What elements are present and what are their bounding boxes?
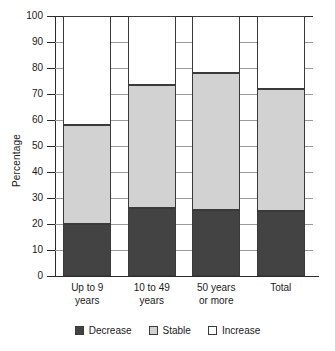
y-tick-label-90: 90 xyxy=(0,37,43,47)
bar-segment-decrease xyxy=(63,224,111,276)
bar-3 xyxy=(192,16,240,276)
y-tick-mark-70 xyxy=(47,94,55,95)
y-tick-mark-0 xyxy=(47,276,55,277)
bar-segment-stable xyxy=(192,73,240,210)
bar-segment-increase xyxy=(257,16,305,89)
bar-4 xyxy=(257,16,305,276)
plot-area xyxy=(55,16,313,276)
legend-item-stable[interactable]: Stable xyxy=(149,325,191,336)
bar-segment-stable xyxy=(257,89,305,211)
y-tick-label-80: 80 xyxy=(0,63,43,73)
x-axis-line xyxy=(47,276,319,277)
y-tick-label-40: 40 xyxy=(0,167,43,177)
bar-segment-stable xyxy=(128,85,176,209)
legend-item-increase[interactable]: Increase xyxy=(208,325,260,336)
y-tick-mark-50 xyxy=(47,146,55,147)
category-label-line: Total xyxy=(238,281,324,294)
legend: DecreaseStableIncrease xyxy=(0,325,335,336)
bar-segment-increase xyxy=(192,16,240,73)
bar-1 xyxy=(63,16,111,276)
y-tick-label-60: 60 xyxy=(0,115,43,125)
y-tick-mark-40 xyxy=(47,172,55,173)
y-tick-mark-20 xyxy=(47,224,55,225)
y-tick-mark-80 xyxy=(47,68,55,69)
bar-segment-decrease xyxy=(192,210,240,276)
bar-segment-decrease xyxy=(128,208,176,276)
legend-swatch-stable-icon xyxy=(149,326,158,335)
legend-swatch-decrease-icon xyxy=(75,326,84,335)
y-tick-label-100: 100 xyxy=(0,11,43,21)
y-tick-label-50: 50 xyxy=(0,141,43,151)
bar-segment-increase xyxy=(63,16,111,125)
category-label-line: or more xyxy=(173,294,259,307)
y-tick-mark-10 xyxy=(47,250,55,251)
x-category-label-4: Total xyxy=(238,281,324,294)
legend-item-decrease[interactable]: Decrease xyxy=(75,325,132,336)
y-tick-mark-100 xyxy=(47,16,55,17)
bar-2 xyxy=(128,16,176,276)
y-tick-mark-60 xyxy=(47,120,55,121)
y-tick-label-20: 20 xyxy=(0,219,43,229)
bar-segment-stable xyxy=(63,125,111,224)
y-tick-label-70: 70 xyxy=(0,89,43,99)
legend-label: Increase xyxy=(222,325,260,336)
y-tick-mark-90 xyxy=(47,42,55,43)
y-tick-label-30: 30 xyxy=(0,193,43,203)
legend-label: Decrease xyxy=(89,325,132,336)
y-tick-label-10: 10 xyxy=(0,245,43,255)
bar-segment-decrease xyxy=(257,211,305,276)
legend-label: Stable xyxy=(163,325,191,336)
y-tick-label-0: 0 xyxy=(0,271,43,281)
stacked-bar-chart: Percentage 0102030405060708090100 Up to … xyxy=(0,0,335,351)
legend-swatch-increase-icon xyxy=(208,326,217,335)
y-tick-mark-30 xyxy=(47,198,55,199)
bar-segment-increase xyxy=(128,16,176,85)
